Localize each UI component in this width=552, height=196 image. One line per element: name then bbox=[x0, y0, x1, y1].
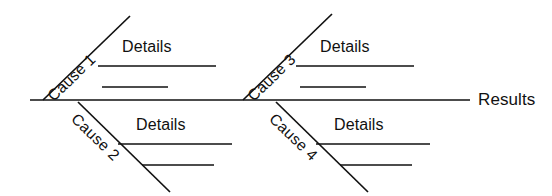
results-label: Results bbox=[478, 90, 535, 110]
details-label-cause-3: Details bbox=[320, 38, 370, 56]
details-label-cause-4: Details bbox=[334, 116, 384, 134]
fishbone-diagram: Results Cause 1 Details Cause 3 Details … bbox=[0, 0, 552, 196]
details-label-cause-1: Details bbox=[122, 38, 172, 56]
diagram-canvas bbox=[0, 0, 552, 196]
details-label-cause-2: Details bbox=[136, 116, 186, 134]
